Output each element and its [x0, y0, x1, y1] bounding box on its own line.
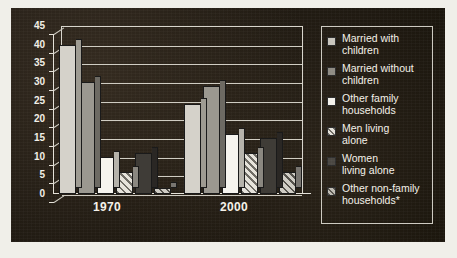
y-tick-label: 20 [34, 114, 45, 124]
bar-side [258, 147, 264, 188]
legend-label: Women living alone [342, 153, 395, 176]
y-tick-label: 10 [34, 152, 45, 162]
y-tick-label: 45 [34, 21, 45, 31]
legend-swatch-icon [327, 157, 336, 166]
y-tick-label: 25 [34, 96, 45, 106]
bar-side [171, 182, 177, 188]
legend-swatch-icon [327, 37, 336, 46]
legend-label: Men living alone [342, 123, 389, 146]
legend-item-women-living-alone: Women living alone [327, 153, 428, 176]
legend-swatch-icon [327, 67, 336, 76]
bar-2000-married-with-children [184, 104, 201, 194]
bar-side [95, 76, 101, 188]
legend-label: Married with children [342, 33, 399, 56]
legend-swatch-icon [327, 97, 336, 106]
chart-panel: 45 40 35 30 25 20 15 10 5 0 [11, 8, 445, 242]
legend-label: Other family households [342, 93, 399, 116]
bar-side [152, 147, 158, 188]
legend-item-other-family-households: Other family households [327, 93, 428, 116]
y-tick-label: 5 [39, 170, 45, 180]
plot-area: 1970 2000 [53, 26, 303, 210]
y-tick-label: 15 [34, 133, 45, 143]
chart-legend: Married with children Married without ch… [321, 26, 433, 224]
bar-side [220, 80, 226, 188]
x-tick-label-1970: 1970 [84, 200, 130, 214]
bar-1970-other-non-family-households [154, 188, 171, 194]
gridline [62, 46, 302, 47]
y-tick-label: 30 [34, 77, 45, 87]
legend-label: Married without children [342, 63, 414, 86]
depth-connector [54, 195, 65, 203]
bar-1970-married-with-children [59, 45, 76, 194]
y-axis-line [53, 34, 54, 194]
legend-swatch-icon [327, 127, 336, 136]
y-tick-label: 35 [34, 58, 45, 68]
legend-label: Other non-family households* [342, 183, 420, 206]
legend-swatch-icon [327, 187, 336, 196]
chart-figure: 45 40 35 30 25 20 15 10 5 0 [0, 0, 457, 258]
gridline [62, 64, 302, 65]
bar-face [59, 45, 76, 194]
bar-side [277, 132, 283, 188]
bar-side [296, 166, 302, 188]
bar-side [133, 166, 139, 188]
bar-side [76, 39, 82, 188]
legend-item-married-with-children: Married with children [327, 33, 428, 56]
gridline [62, 195, 302, 196]
bar-side [239, 128, 245, 188]
bar-side [201, 98, 207, 188]
y-tick-label: 0 [39, 189, 45, 199]
x-tick-label-2000: 2000 [211, 200, 257, 214]
y-axis-labels: 45 40 35 30 25 20 15 10 5 0 [11, 26, 45, 210]
legend-item-married-without-children: Married without children [327, 63, 428, 86]
bar-face [184, 104, 201, 194]
legend-item-men-living-alone: Men living alone [327, 123, 428, 146]
legend-item-other-non-family-households: Other non-family households* [327, 183, 428, 206]
y-tick-label: 40 [34, 40, 45, 50]
bar-face [154, 188, 171, 194]
bar-side [114, 151, 120, 188]
